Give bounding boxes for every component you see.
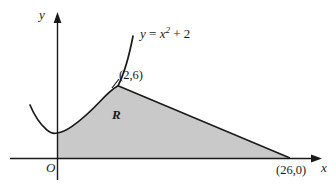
figure-container: y x O R (2,6) (26,0) y = x2 + 2: [0, 0, 336, 188]
y-axis-label: y: [39, 8, 45, 21]
point-label-2-6: (2,6): [119, 69, 143, 82]
curve-equation-label: y = x2 + 2: [140, 26, 190, 40]
equation-equals: =: [146, 26, 160, 41]
y-axis-arrowhead: [54, 12, 62, 23]
region-label-R: R: [112, 108, 121, 121]
shaded-region-R: [57, 86, 290, 158]
equation-tail: + 2: [170, 26, 190, 41]
point-label-26-0: (26,0): [276, 164, 306, 177]
x-axis-label: x: [321, 161, 327, 174]
origin-label: O: [46, 161, 55, 174]
